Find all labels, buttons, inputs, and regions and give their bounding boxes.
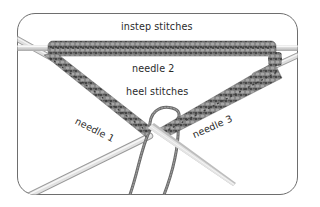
label-needle-2: needle 2 <box>132 64 175 74</box>
instep-stitches <box>48 41 276 56</box>
label-instep-stitches: instep stitches <box>121 22 193 32</box>
label-heel-stitches: heel stitches <box>126 87 188 97</box>
